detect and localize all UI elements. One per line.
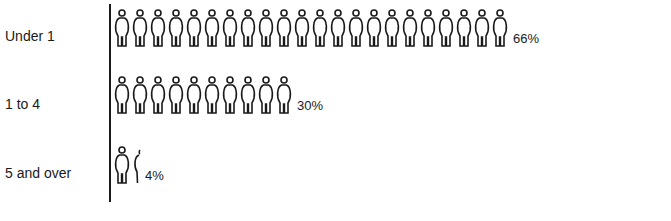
person-icon	[365, 8, 383, 50]
percent-label: 66%	[513, 31, 539, 46]
vertical-axis	[109, 4, 111, 202]
person-icon	[149, 75, 167, 117]
person-icon	[185, 75, 203, 117]
person-icon	[131, 8, 149, 50]
caption-fragment	[0, 206, 671, 221]
person-icon	[275, 8, 293, 50]
pictograph-row: 66%	[113, 8, 539, 50]
person-icon	[401, 8, 419, 50]
person-icon	[329, 8, 347, 50]
percent-label: 4%	[145, 168, 164, 183]
person-icon	[293, 8, 311, 50]
person-icon	[257, 8, 275, 50]
person-icon	[221, 75, 239, 117]
person-icon	[167, 75, 185, 117]
person-icon	[131, 75, 149, 117]
person-icon	[113, 8, 131, 50]
person-icon	[311, 8, 329, 50]
person-icon	[185, 8, 203, 50]
person-icon	[113, 75, 131, 117]
person-icon	[455, 8, 473, 50]
person-icon	[275, 75, 293, 117]
category-label: Under 1	[5, 28, 55, 44]
person-icon	[149, 8, 167, 50]
person-icon	[203, 75, 221, 117]
person-icon	[383, 8, 401, 50]
person-icon	[239, 75, 257, 117]
percent-label: 30%	[297, 98, 323, 113]
person-icon	[239, 8, 257, 50]
category-label: 5 and over	[5, 165, 71, 181]
person-icon	[257, 75, 275, 117]
person-icon	[221, 8, 239, 50]
person-icon	[491, 8, 509, 50]
person-icon	[113, 145, 131, 187]
person-icon	[347, 8, 365, 50]
pictograph-row: 30%	[113, 75, 323, 117]
category-label: 1 to 4	[5, 96, 40, 112]
person-icon	[473, 8, 491, 50]
person-icon	[167, 8, 185, 50]
pictograph-row: 4%	[113, 145, 164, 187]
person-icon	[437, 8, 455, 50]
person-icon	[203, 8, 221, 50]
partial-person-icon	[131, 145, 141, 187]
person-icon	[419, 8, 437, 50]
